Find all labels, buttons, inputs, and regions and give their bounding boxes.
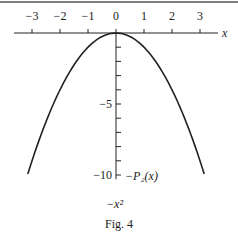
x-tick-label: 2: [169, 9, 175, 23]
y-tick-label: −10: [93, 168, 112, 182]
x-tick-label: −1: [82, 9, 95, 23]
y-tick-labels: −5−10: [93, 97, 112, 182]
figure-caption: Fig. 4: [105, 217, 133, 231]
sublabel-neg-x-squared: −x²: [106, 197, 123, 211]
x-tick-label: 0: [113, 9, 119, 23]
curve-label: −P₂(x): [125, 169, 158, 183]
x-tick-labels: −3−2−10123: [26, 9, 203, 23]
x-tick-label: −2: [54, 9, 67, 23]
x-axis-label: x: [221, 26, 228, 40]
figure-4: −3−2−10123 −5−10 x −P₂(x) −x² Fig. 4: [0, 0, 238, 237]
x-tick-label: 1: [141, 9, 147, 23]
x-tick-label: −3: [26, 9, 39, 23]
axes: [14, 29, 218, 179]
x-tick-label: 3: [197, 9, 203, 23]
y-tick-label: −5: [99, 97, 112, 111]
